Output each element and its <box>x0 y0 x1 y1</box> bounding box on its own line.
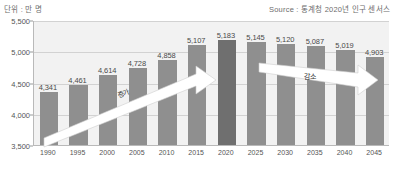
bar <box>69 85 87 145</box>
bar <box>188 45 206 145</box>
bar-slot <box>158 21 176 145</box>
population-bar-chart: 단위 : 만 명 Source : 통계청 2020년 인구 센서스 3,500… <box>0 0 395 173</box>
x-axis-tick-label: 1995 <box>70 149 86 156</box>
bar-value-label: 4,341 <box>39 83 57 92</box>
bar-value-label: 5,019 <box>335 41 353 50</box>
source-label: Source : 통계청 2020년 인구 센서스 <box>269 3 390 14</box>
bar <box>307 46 325 145</box>
y-axis-tick-label: 5,500 <box>0 17 30 26</box>
bar-value-label: 4,903 <box>365 48 383 57</box>
x-axis-tick-label: 2040 <box>337 149 353 156</box>
bar-value-label: 5,183 <box>217 31 235 40</box>
bar <box>158 60 176 145</box>
bar-value-label: 4,614 <box>98 66 116 75</box>
bar-value-label: 4,858 <box>157 51 175 60</box>
x-axis-tick-label: 2045 <box>366 149 382 156</box>
x-axis-tick-label: 2005 <box>129 149 145 156</box>
x-axis-tick-label: 2020 <box>218 149 234 156</box>
bar-value-label: 4,728 <box>128 59 146 68</box>
bar-slot <box>336 21 354 145</box>
unit-label: 단위 : 만 명 <box>4 3 42 14</box>
x-axis-tick-label: 2000 <box>99 149 115 156</box>
bar <box>99 75 117 145</box>
x-axis-tick-label: 2025 <box>248 149 264 156</box>
y-axis-tick-label: 4,000 <box>0 110 30 119</box>
bar-slot <box>129 21 147 145</box>
y-axis-tick-label: 3,500 <box>0 142 30 151</box>
bar <box>336 50 354 145</box>
x-axis-tick-label: 2010 <box>159 149 175 156</box>
x-axis-tick-label: 2030 <box>277 149 293 156</box>
bar <box>218 40 236 145</box>
bar <box>129 68 147 145</box>
x-axis-tick-label: 1990 <box>40 149 56 156</box>
bar <box>247 42 265 145</box>
bar <box>40 92 58 145</box>
bar-value-label: 5,145 <box>246 33 264 42</box>
x-axis-tick-label: 2035 <box>307 149 323 156</box>
y-axis-tick-label: 5,000 <box>0 48 30 57</box>
decrease-arrow-label: 감소 <box>304 71 316 81</box>
x-axis-tick-label: 2015 <box>188 149 204 156</box>
bar <box>277 44 295 145</box>
bar-slot <box>99 21 117 145</box>
bar-value-label: 5,107 <box>187 36 205 45</box>
bar-value-label: 4,461 <box>68 76 86 85</box>
y-axis-tick-label: 4,500 <box>0 79 30 88</box>
bar-slot <box>366 21 384 145</box>
bar <box>366 57 384 145</box>
bar-value-label: 5,120 <box>276 35 294 44</box>
bar-value-label: 5,087 <box>306 37 324 46</box>
